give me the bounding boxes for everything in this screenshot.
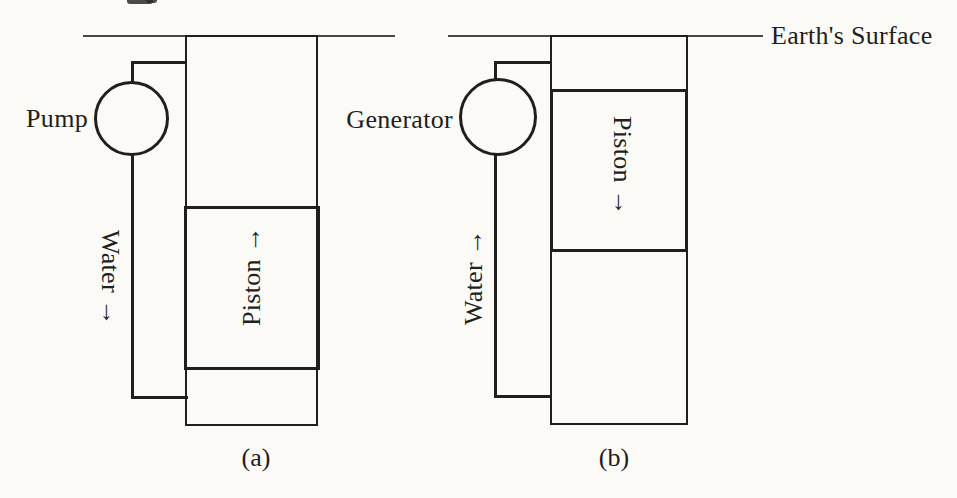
panel-b-pipe-top-horizontal [494, 61, 552, 64]
panel-b: Generator Water → Piston → (b) [0, 0, 957, 498]
generator-circle [459, 78, 537, 156]
panel-b-pipe-bottom-horizontal [494, 395, 552, 398]
panel-b-piston-label: Piston → [609, 116, 635, 216]
figure-canvas: Earth's Surface Pump Water → Piston → (a… [0, 0, 957, 498]
panel-b-water-label: Water → [461, 229, 487, 325]
panel-b-caption: (b) [599, 444, 629, 472]
panel-b-pipe-down-vertical [494, 154, 497, 398]
generator-label: Generator [335, 106, 453, 134]
